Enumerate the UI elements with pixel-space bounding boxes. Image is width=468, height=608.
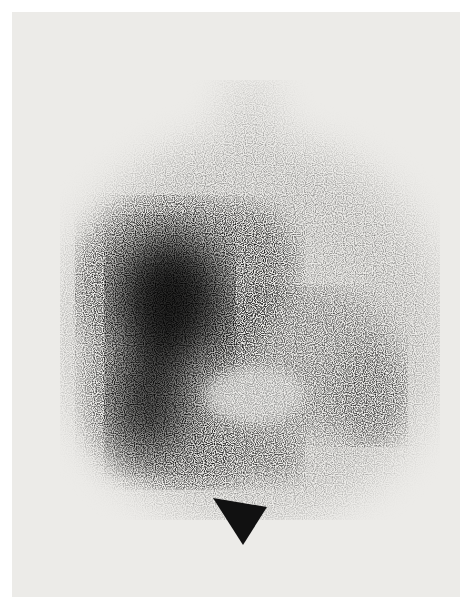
scintigraphy-image <box>12 12 460 597</box>
scan-frame <box>12 12 460 597</box>
photopenic-gap <box>205 367 305 423</box>
